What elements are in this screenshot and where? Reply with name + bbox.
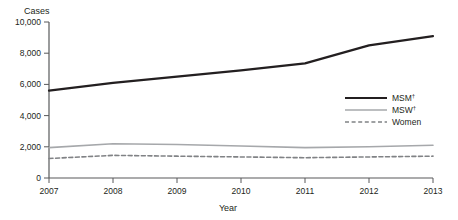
y-tick-label: 0 <box>36 173 41 183</box>
x-axis-title: Year <box>219 203 237 213</box>
x-axis-ticks: 2007200820092010201120122013 <box>40 178 443 196</box>
y-tick-label: 8,000 <box>20 48 42 58</box>
legend-label-msw: MSW† <box>392 105 416 115</box>
x-tick-label: 2012 <box>360 186 379 196</box>
line-chart: Cases Year 02,0004,0006,0008,00010,000 2… <box>0 0 458 220</box>
x-tick-label: 2013 <box>424 186 443 196</box>
y-tick-label: 4,000 <box>20 111 42 121</box>
y-axis-title: Cases <box>24 6 50 16</box>
y-tick-label: 10,000 <box>15 17 41 27</box>
x-tick-label: 2010 <box>232 186 251 196</box>
x-tick-label: 2007 <box>40 186 59 196</box>
x-tick-label: 2009 <box>168 186 187 196</box>
x-tick-label: 2011 <box>296 186 315 196</box>
y-tick-label: 6,000 <box>20 79 42 89</box>
chart-figure: Cases Year 02,0004,0006,0008,00010,000 2… <box>0 0 458 220</box>
y-axis-ticks: 02,0004,0006,0008,00010,000 <box>15 17 49 183</box>
y-tick-label: 2,000 <box>20 142 42 152</box>
legend-label-women: Women <box>392 117 421 127</box>
legend-label-msm: MSM† <box>392 93 415 103</box>
x-tick-label: 2008 <box>104 186 123 196</box>
